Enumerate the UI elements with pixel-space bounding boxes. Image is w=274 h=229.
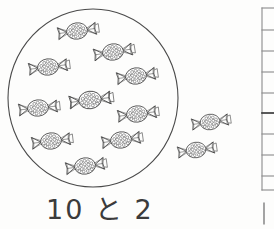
- page-margin-rule: [262, 8, 274, 224]
- candy-group-inside: [18, 20, 160, 177]
- worksheet-illustration: [0, 0, 274, 229]
- candy-inside-1: [57, 20, 100, 42]
- candy-inside-5: [18, 98, 61, 119]
- worksheet-page: 10 と 2: [0, 0, 274, 229]
- candy-inside-4: [116, 65, 159, 87]
- candy-inside-9: [101, 129, 144, 151]
- candy-outside-2: [177, 139, 218, 160]
- candy-inside-2: [28, 56, 71, 77]
- candy-inside-3: [93, 40, 136, 63]
- candy-outside-1: [191, 111, 232, 132]
- candy-group-outside: [177, 111, 232, 160]
- candy-inside-10: [65, 155, 108, 177]
- candy-inside-8: [31, 130, 74, 151]
- candy-inside-6: [68, 88, 114, 111]
- candy-inside-7: [117, 103, 160, 124]
